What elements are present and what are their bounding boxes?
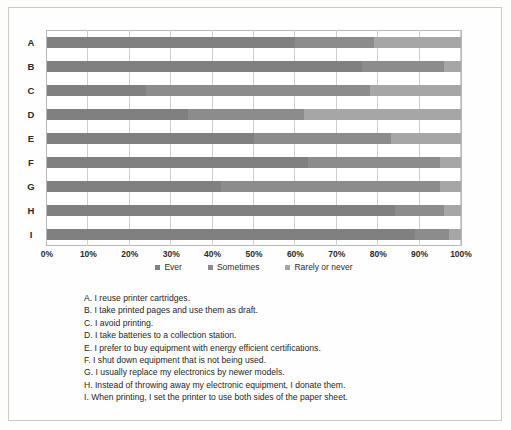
bar-segment-sometimes bbox=[395, 205, 445, 216]
key-line-4: D. I take batteries to a collection stat… bbox=[84, 329, 484, 341]
x-tick-80pct: 80% bbox=[370, 249, 387, 259]
category-label-i: I bbox=[22, 230, 40, 240]
bar-segment-rarely-or-never bbox=[449, 229, 461, 240]
key-line-2: B. I take printed pages and use them as … bbox=[84, 304, 484, 316]
x-tick-50pct: 50% bbox=[245, 249, 262, 259]
bar-segment-sometimes bbox=[146, 85, 370, 96]
key-line-7: G. I usually replace my electronics by n… bbox=[84, 366, 484, 378]
bar-segment-ever bbox=[47, 37, 295, 48]
legend-label: Ever bbox=[164, 262, 181, 272]
bar-segment-ever bbox=[47, 181, 221, 192]
key-line-1: A. I reuse printer cartridges. bbox=[84, 292, 484, 304]
key-line-9: I. When printing, I set the printer to u… bbox=[84, 391, 484, 403]
stacked-bar-f bbox=[47, 157, 461, 168]
bar-segment-sometimes bbox=[254, 133, 391, 144]
bar-segment-rarely-or-never bbox=[370, 85, 461, 96]
category-label-c: C bbox=[22, 86, 40, 96]
bar-segment-sometimes bbox=[362, 61, 445, 72]
stacked-bar-a bbox=[47, 37, 461, 48]
chart-figure: 0%10%20%30%40%50%60%70%80%90%100% ABCDEF… bbox=[0, 0, 511, 430]
bar-segment-sometimes bbox=[295, 37, 374, 48]
bar-segment-ever bbox=[47, 61, 362, 72]
x-tick-90pct: 90% bbox=[411, 249, 428, 259]
x-axis-tick-labels: 0%10%20%30%40%50%60%70%80%90%100% bbox=[46, 249, 462, 263]
bar-segment-rarely-or-never bbox=[440, 181, 461, 192]
x-tick-100pct: 100% bbox=[450, 249, 472, 259]
x-tick-60pct: 60% bbox=[287, 249, 304, 259]
x-tick-0pct: 0% bbox=[41, 249, 53, 259]
category-label-a: A bbox=[22, 38, 40, 48]
plot-wrapper: 0%10%20%30%40%50%60%70%80%90%100% bbox=[46, 30, 462, 246]
category-label-g: G bbox=[22, 182, 40, 192]
chart-legend: EverSometimesRarely or never bbox=[46, 262, 462, 272]
bar-segment-ever bbox=[47, 157, 308, 168]
legend-item-ever[interactable]: Ever bbox=[155, 262, 181, 272]
legend-label: Sometimes bbox=[217, 262, 260, 272]
bar-segment-ever bbox=[47, 85, 146, 96]
bar-segment-sometimes bbox=[308, 157, 440, 168]
bar-segment-rarely-or-never bbox=[444, 205, 461, 216]
legend-item-sometimes[interactable]: Sometimes bbox=[208, 262, 260, 272]
key-line-5: E. I prefer to buy equipment with energy… bbox=[84, 342, 484, 354]
bar-segment-ever bbox=[47, 205, 395, 216]
category-label-e: E bbox=[22, 134, 40, 144]
legend-item-rarely-or-never[interactable]: Rarely or never bbox=[285, 262, 352, 272]
category-label-h: H bbox=[22, 206, 40, 216]
bar-segment-rarely-or-never bbox=[374, 37, 461, 48]
x-tick-40pct: 40% bbox=[204, 249, 221, 259]
category-label-f: F bbox=[22, 158, 40, 168]
key-line-3: C. I avoid printing. bbox=[84, 317, 484, 329]
bar-segment-sometimes bbox=[221, 181, 440, 192]
legend-swatch-icon bbox=[208, 265, 213, 270]
x-tick-10pct: 10% bbox=[80, 249, 97, 259]
legend-label: Rarely or never bbox=[294, 262, 352, 272]
stacked-bar-i bbox=[47, 229, 461, 240]
stacked-bar-h bbox=[47, 205, 461, 216]
bar-segment-ever bbox=[47, 229, 415, 240]
x-tick-70pct: 70% bbox=[328, 249, 345, 259]
bar-segment-rarely-or-never bbox=[444, 61, 461, 72]
legend-swatch-icon bbox=[155, 265, 160, 270]
stacked-bar-d bbox=[47, 109, 461, 120]
key-line-8: H. Instead of throwing away my electroni… bbox=[84, 379, 484, 391]
category-label-b: B bbox=[22, 62, 40, 72]
bar-segment-sometimes bbox=[415, 229, 448, 240]
x-tick-20pct: 20% bbox=[121, 249, 138, 259]
legend-swatch-icon bbox=[285, 265, 290, 270]
bar-segment-sometimes bbox=[188, 109, 304, 120]
bar-segment-ever bbox=[47, 133, 254, 144]
bar-segment-rarely-or-never bbox=[304, 109, 461, 120]
key-line-6: F. I shut down equipment that is not bei… bbox=[84, 354, 484, 366]
stacked-bar-b bbox=[47, 61, 461, 72]
x-tick-30pct: 30% bbox=[163, 249, 180, 259]
category-label-d: D bbox=[22, 110, 40, 120]
bar-segment-rarely-or-never bbox=[440, 157, 461, 168]
stacked-bar-g bbox=[47, 181, 461, 192]
stacked-bar-c bbox=[47, 85, 461, 96]
category-key-list: A. I reuse printer cartridges.B. I take … bbox=[84, 292, 484, 404]
bar-segment-ever bbox=[47, 109, 188, 120]
stacked-bar-e bbox=[47, 133, 461, 144]
bar-segment-rarely-or-never bbox=[391, 133, 461, 144]
